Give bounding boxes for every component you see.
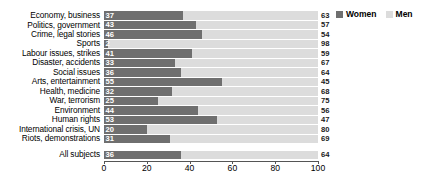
plot-area: Economy, business3763Politics, governmen… — [0, 11, 432, 160]
women-value-label: 32 — [106, 87, 114, 96]
stacked-bar-chart: WomenMen Economy, business3763Politics, … — [0, 0, 432, 181]
bar-track: 43 — [104, 21, 318, 30]
axis-tick-label: 20 — [142, 164, 152, 173]
men-value-label: 57 — [318, 21, 337, 29]
men-value-label: 68 — [318, 88, 337, 96]
category-label: Riots, demonstrations — [0, 134, 104, 143]
bar-segment-women — [104, 30, 202, 39]
men-value-label: 69 — [318, 135, 337, 143]
bar-track: 46 — [104, 30, 318, 39]
bar-segment-women — [104, 106, 198, 115]
bar-track: 20 — [104, 125, 318, 134]
men-value-label: 47 — [318, 116, 337, 124]
x-axis-line — [104, 161, 318, 162]
women-value-label: 33 — [106, 59, 114, 68]
bar-segment-women — [104, 68, 181, 77]
men-value-label: 63 — [318, 12, 337, 20]
category-label: All subjects — [0, 150, 104, 159]
women-value-label: 41 — [106, 49, 114, 58]
women-value-label: 20 — [106, 125, 114, 134]
bar-track: 2 — [104, 40, 318, 49]
bar-track: 31 — [104, 135, 318, 144]
women-value-label: 25 — [106, 97, 114, 106]
men-value-label: 54 — [318, 31, 337, 39]
category-label: Economy, business — [0, 11, 104, 20]
bar-track: 37 — [104, 11, 318, 20]
women-value-label: 44 — [106, 106, 114, 115]
chart-row: Economy, business3763 — [0, 11, 432, 20]
chart-row: Riots, demonstrations3169 — [0, 134, 432, 143]
men-value-label: 75 — [318, 97, 337, 105]
bar-track: 36 — [104, 151, 318, 160]
women-value-label: 53 — [106, 116, 114, 125]
women-value-label: 31 — [106, 135, 114, 144]
bar-segment-women — [104, 11, 183, 20]
men-value-label: 98 — [318, 40, 337, 48]
category-label: Human rights — [0, 115, 104, 124]
women-value-label: 36 — [106, 151, 114, 160]
bar-track: 32 — [104, 87, 318, 96]
men-value-label: 67 — [318, 59, 337, 67]
chart-row: All subjects3664 — [0, 150, 432, 159]
axis-tick-label: 80 — [270, 164, 280, 173]
women-value-label: 46 — [106, 30, 114, 39]
women-value-label: 36 — [106, 68, 114, 77]
axis-tick-label: 0 — [102, 164, 107, 173]
women-value-label: 55 — [106, 78, 114, 87]
bar-track: 41 — [104, 49, 318, 58]
women-value-label: 2 — [106, 40, 110, 49]
bar-track: 25 — [104, 97, 318, 106]
chart-row: Crime, legal stories4654 — [0, 30, 432, 39]
bar-segment-women — [104, 116, 217, 125]
men-value-label: 56 — [318, 107, 337, 115]
bar-segment-women — [104, 59, 175, 68]
men-value-label: 64 — [318, 69, 337, 77]
men-value-label: 45 — [318, 78, 337, 86]
men-value-label: 59 — [318, 50, 337, 58]
bar-segment-women — [104, 151, 181, 160]
bar-track: 44 — [104, 106, 318, 115]
bar-track: 55 — [104, 78, 318, 87]
men-value-label: 80 — [318, 126, 337, 134]
axis-tick-label: 40 — [185, 164, 195, 173]
axis-tick-label: 100 — [311, 164, 325, 173]
women-value-label: 43 — [106, 21, 114, 30]
bar-segment-women — [104, 21, 196, 30]
bar-segment-women — [104, 87, 172, 96]
bar-segment-women — [104, 49, 192, 58]
axis-tick-label: 60 — [228, 164, 238, 173]
bar-track: 33 — [104, 59, 318, 68]
bar-track: 53 — [104, 116, 318, 125]
men-value-label: 64 — [318, 151, 337, 159]
bar-segment-women — [104, 78, 222, 87]
women-value-label: 37 — [106, 11, 114, 20]
bar-track: 36 — [104, 68, 318, 77]
